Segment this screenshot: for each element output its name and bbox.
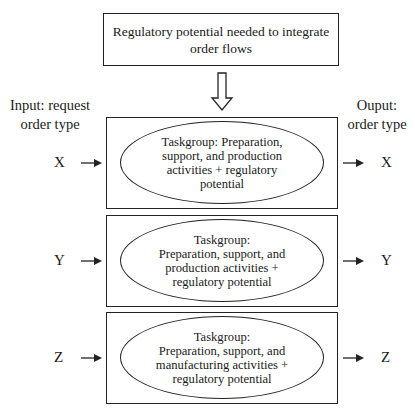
ellipse-line: support, and production [162,149,283,163]
ellipse-line: potential [162,177,283,191]
input-letter-y: Y [54,252,65,269]
output-arrow-icon [343,353,365,363]
ellipse-line: regulatory potential [159,275,286,289]
input-arrow-icon [81,158,103,168]
taskgroup-ellipse-z: Taskgroup: Preparation, support, and man… [120,316,324,399]
ellipse-line: activities + regulatory [162,163,283,177]
ellipse-line: Preparation, support, and [159,247,286,261]
output-letter-y: Y [381,252,392,269]
ellipse-line: Taskgroup: Preparation, [162,135,283,149]
input-label: Input: request order type [2,96,98,134]
regulatory-potential-box: Regulatory potential needed to integrate… [103,13,339,66]
output-label-line-1: Ouput: [340,96,414,115]
output-label: Ouput: order type [340,96,414,134]
output-arrow-icon [343,158,365,168]
input-arrow-icon [81,353,103,363]
output-label-line-2: order type [340,115,414,134]
input-label-line-1: Input: request [2,96,98,115]
input-letter-z: Z [54,349,63,366]
ellipse-line: manufacturing activities + [156,358,288,372]
output-letter-x: X [381,154,392,171]
header-line-2: order flows [190,40,252,57]
input-arrow-icon [81,256,103,266]
ellipse-line: Taskgroup: [159,233,286,247]
header-line-1: Regulatory potential needed to integrate [113,23,330,40]
ellipse-line: Taskgroup: [156,330,288,344]
ellipse-line: Preparation, support, and [156,344,288,358]
taskgroup-ellipse-x: Taskgroup: Preparation, support, and pro… [120,121,324,204]
taskgroup-ellipse-y: Taskgroup: Preparation, support, and pro… [120,219,324,302]
output-arrow-icon [343,256,365,266]
ellipse-line: regulatory potential [156,372,288,386]
input-label-line-2: order type [2,115,98,134]
hollow-down-arrow-icon [210,72,234,112]
ellipse-line: production activities + [159,261,286,275]
output-letter-z: Z [381,349,390,366]
input-letter-x: X [54,154,65,171]
